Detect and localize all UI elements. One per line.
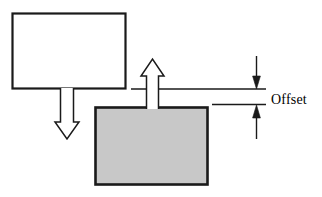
offset-label: Offset: [271, 93, 307, 107]
white-rectangle: [13, 14, 126, 89]
up-outline-arrow: [141, 59, 164, 109]
diagram-canvas: Offset: [0, 0, 322, 197]
down-outline-arrow: [55, 88, 79, 139]
offset-dimension-upper-arrowhead: [253, 76, 261, 89]
offset-dimension-lower-arrowhead: [253, 105, 261, 118]
gray-rectangle: [96, 108, 208, 185]
